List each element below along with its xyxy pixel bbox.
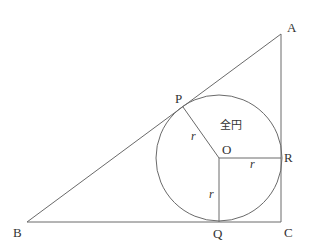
label-r-op: r xyxy=(191,129,196,143)
label-o: O xyxy=(222,142,231,157)
label-q: Q xyxy=(213,226,223,241)
label-p: P xyxy=(175,91,182,106)
geometry-diagram: A B C P Q R O r r r 全円 xyxy=(0,0,310,250)
radius-op xyxy=(183,107,219,158)
circle-label: 全円 xyxy=(220,118,242,132)
label-c: C xyxy=(284,225,293,240)
side-ab xyxy=(27,34,281,222)
label-r-or: r xyxy=(250,157,255,171)
label-r: R xyxy=(284,150,293,165)
label-b: B xyxy=(13,225,22,240)
label-a: A xyxy=(287,20,297,35)
label-r-oq: r xyxy=(209,187,214,201)
